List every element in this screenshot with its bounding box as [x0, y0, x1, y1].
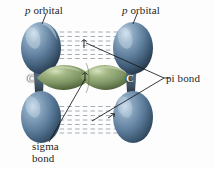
upper-pi-marker-icon — [82, 40, 87, 49]
atom-label-carbon-left: C — [27, 72, 35, 84]
p-orbital-lower-left — [21, 91, 61, 143]
label-p-orbital-left: p orbital — [25, 4, 63, 16]
p-orbital-lower-right — [113, 91, 153, 143]
orbital-diagram-figure: p orbital p orbital pi bond sigma bond C… — [0, 0, 215, 169]
p-orbital-upper-left — [21, 22, 61, 74]
atom-label-carbon-right: C — [126, 72, 134, 84]
label-sigma-bond: sigma bond — [32, 140, 59, 164]
sigma-bond-line-2: bond — [32, 152, 59, 164]
sigma-bond-line-1: sigma — [32, 140, 59, 152]
p-orbital-upper-right — [113, 22, 153, 74]
p-orbital-left-rest: orbital — [31, 4, 63, 16]
label-pi-bond: pi bond — [166, 72, 200, 84]
p-orbital-right-rest: orbital — [128, 4, 160, 16]
label-p-orbital-right: p orbital — [122, 4, 160, 16]
